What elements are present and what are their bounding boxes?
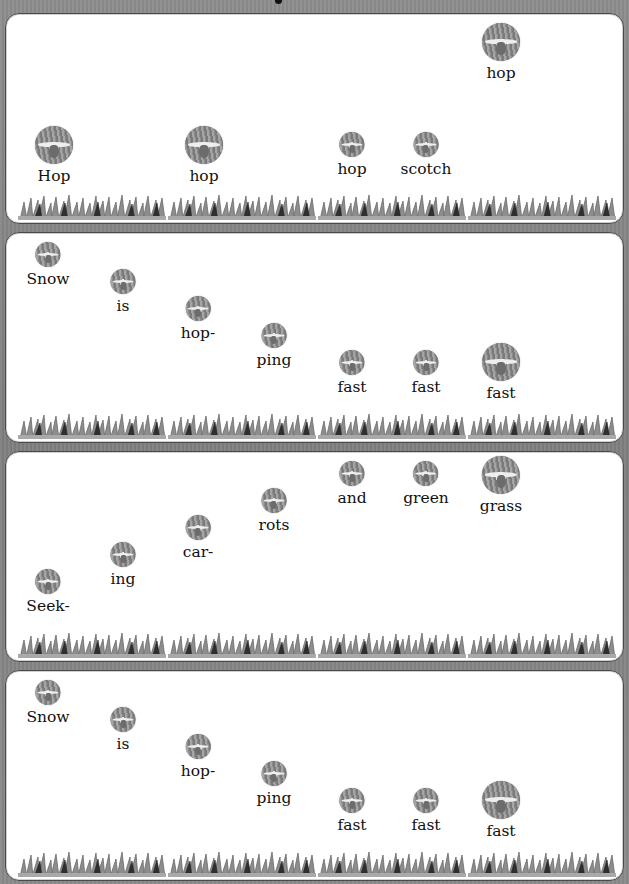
word-stone[interactable]: Seek-	[26, 569, 69, 615]
word-label: fast	[337, 378, 366, 396]
word-label: fast	[411, 378, 440, 396]
owl-icon	[35, 242, 60, 267]
grass-icon	[468, 851, 616, 877]
word-stone[interactable]: Snow	[26, 680, 69, 726]
hopscotch-panel: Seek-ingcar-rotsandgreengrass	[5, 451, 624, 662]
owl-icon	[339, 350, 364, 375]
word-stone[interactable]: Snow	[26, 242, 69, 288]
owl-icon	[482, 343, 520, 381]
word-stone[interactable]: hop	[337, 132, 366, 178]
word-label: ping	[257, 789, 292, 807]
owl-icon	[185, 515, 210, 540]
word-label: fast	[486, 384, 515, 402]
owl-icon	[413, 788, 438, 813]
word-label: is	[117, 735, 130, 753]
word-label: hop-	[181, 762, 215, 780]
grass-icon	[468, 632, 616, 658]
grass-icon	[168, 194, 316, 220]
owl-icon	[35, 680, 60, 705]
owl-icon	[111, 542, 136, 567]
grass-icon	[18, 413, 166, 439]
owl-icon	[482, 456, 520, 494]
word-label: scotch	[401, 160, 452, 178]
title-fragment	[275, 0, 282, 4]
grass-icon	[18, 851, 166, 877]
owl-icon	[262, 488, 287, 513]
grass-icon	[318, 851, 466, 877]
owl-icon	[35, 569, 60, 594]
word-label: ing	[111, 570, 136, 588]
owl-icon	[340, 132, 365, 157]
owl-icon	[35, 126, 73, 164]
word-stone[interactable]: hop	[482, 23, 520, 82]
owl-icon	[185, 734, 210, 759]
owl-icon	[340, 461, 365, 486]
grass-icon	[318, 194, 466, 220]
owl-icon	[482, 781, 520, 819]
grass-icon	[18, 632, 166, 658]
word-stone[interactable]: ping	[257, 761, 292, 807]
word-stone[interactable]: Hop	[35, 126, 73, 185]
word-stone[interactable]: grass	[480, 456, 522, 515]
grass-icon	[18, 194, 166, 220]
word-stone[interactable]: hop-	[181, 734, 215, 780]
word-label: and	[337, 489, 366, 507]
word-stone[interactable]: fast	[482, 781, 520, 840]
grass-icon	[168, 413, 316, 439]
owl-icon	[111, 269, 136, 294]
word-label: rots	[259, 516, 290, 534]
word-label: Snow	[26, 270, 69, 288]
owl-icon	[413, 350, 438, 375]
word-label: fast	[486, 822, 515, 840]
owl-icon	[185, 126, 223, 164]
word-label: hop-	[181, 324, 215, 342]
word-stone[interactable]: fast	[482, 343, 520, 402]
word-stone[interactable]: hop	[185, 126, 223, 185]
word-label: is	[117, 297, 130, 315]
hopscotch-panel: Hophophopscotchhop	[5, 13, 624, 224]
word-label: hop	[486, 64, 515, 82]
word-label: ping	[257, 351, 292, 369]
owl-icon	[111, 707, 136, 732]
grass-icon	[468, 413, 616, 439]
word-stone[interactable]: hop-	[181, 296, 215, 342]
grass-icon	[468, 194, 616, 220]
word-stone[interactable]: fast	[411, 788, 440, 834]
word-stone[interactable]: rots	[259, 488, 290, 534]
owl-icon	[413, 461, 438, 486]
owl-icon	[261, 323, 286, 348]
word-stone[interactable]: ping	[257, 323, 292, 369]
word-stone[interactable]: ing	[111, 542, 136, 588]
hopscotch-panel: Snowishop-pingfastfastfast	[5, 670, 624, 881]
owl-icon	[261, 761, 286, 786]
word-stone[interactable]: fast	[337, 350, 366, 396]
word-label: hop	[189, 167, 218, 185]
owl-icon	[185, 296, 210, 321]
word-label: hop	[337, 160, 366, 178]
grass-icon	[168, 632, 316, 658]
grass-icon	[318, 413, 466, 439]
word-label: Snow	[26, 708, 69, 726]
word-stone[interactable]: fast	[411, 350, 440, 396]
word-label: car-	[183, 543, 214, 561]
word-stone[interactable]: fast	[337, 788, 366, 834]
grass-icon	[318, 632, 466, 658]
word-label: green	[403, 489, 449, 507]
owl-icon	[413, 132, 438, 157]
owl-icon	[339, 788, 364, 813]
grass-icon	[168, 851, 316, 877]
word-label: fast	[337, 816, 366, 834]
hopscotch-panel: Snowishop-pingfastfastfast	[5, 232, 624, 443]
word-stone[interactable]: is	[111, 269, 136, 315]
word-label: grass	[480, 497, 522, 515]
word-stone[interactable]: and	[337, 461, 366, 507]
word-stone[interactable]: scotch	[401, 132, 452, 178]
word-stone[interactable]: is	[111, 707, 136, 753]
word-stone[interactable]: green	[403, 461, 449, 507]
word-label: fast	[411, 816, 440, 834]
word-label: Hop	[38, 167, 71, 185]
word-label: Seek-	[26, 597, 69, 615]
word-stone[interactable]: car-	[183, 515, 214, 561]
owl-icon	[482, 23, 520, 61]
